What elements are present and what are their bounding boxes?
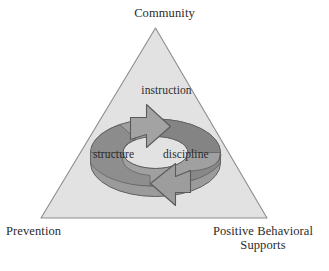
cycle-label-structure-text: structure [93,148,134,160]
vertex-label-prevention: Prevention [6,224,61,238]
cycle-label-instruction-text: instruction [141,84,191,96]
cycle-label-structure: structure [93,148,134,161]
cycle-label-discipline-text: discipline [163,148,209,160]
vertex-label-positive-behavioral-supports: Positive Behavioral Supports [200,224,326,252]
cycle-label-discipline: discipline [163,148,209,161]
vertex-label-prevention-text: Prevention [6,224,61,238]
vertex-label-community: Community [0,6,329,20]
vertex-label-pbs-line1: Positive Behavioral [213,224,313,238]
diagram-canvas: Community Prevention Positive Behavioral… [0,0,329,271]
vertex-label-community-text: Community [134,6,195,20]
cycle-label-instruction: instruction [0,84,329,97]
vertex-label-pbs-line2: Supports [200,238,326,252]
